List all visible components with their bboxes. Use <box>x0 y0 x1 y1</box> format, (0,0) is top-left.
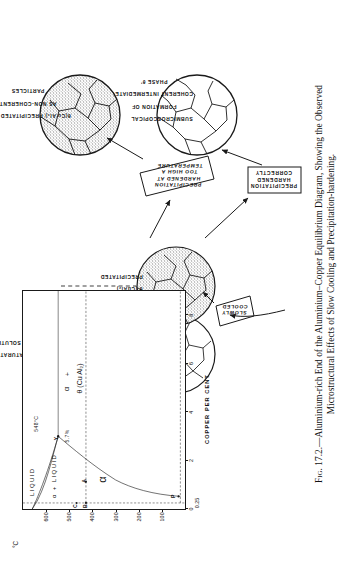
label-coherent-line4: PHASE θ' <box>140 78 167 84</box>
label-noncoherent: θ(Cu Al₂) PRECIPITATED AS NON-COHERENT P… <box>0 87 91 118</box>
x-tick-label-4: 4 <box>188 411 194 414</box>
y-tick-label-200: 200 <box>136 512 142 522</box>
annotation-57pct: 5.7% <box>64 430 70 443</box>
x-tick-label-6: 6 <box>188 362 194 365</box>
label-noncoherent-line3: PARTICLES <box>11 88 44 94</box>
field-label-liquid: LIQUID <box>29 468 35 496</box>
figure-number: Fig. 17.2. <box>314 447 324 483</box>
field-label-alpha: α <box>96 476 108 482</box>
label-coherent-line1: SUBMICROSCOPICAL <box>131 116 193 122</box>
box-correct-label: PRECIPITATION HARDENED CORRECTLY <box>246 170 301 189</box>
y-tick-label-100: 100 <box>159 512 165 522</box>
figure-caption: Fig. 17.2.—Aluminium-rich End of the Alu… <box>313 0 337 568</box>
field-label-alpha-theta-alpha: α <box>62 387 71 392</box>
box-too-high-label: PRECIPITATION HARDENED AT TOO HIGH A TEM… <box>142 162 215 188</box>
figure-page: SOLID SOLUTION (α) θ (CuAl₂) PRECIPITATE… <box>0 0 341 568</box>
label-theta-precipitated-line2: PRECIPITATED <box>100 274 143 280</box>
figure-caption-line1: —Aluminium-rich End of the Aluminium–Cop… <box>314 85 324 447</box>
annotation-548c: 548°C <box>33 416 39 432</box>
box-slowly-cooled-label: SLOWLY COOLED <box>210 304 259 317</box>
point-label-a: A <box>81 479 87 483</box>
rotated-figure-canvas: SOLID SOLUTION (α) θ (CuAl₂) PRECIPITATE… <box>0 0 341 568</box>
field-label-alpha-plus-liquid: α + LIQUID <box>51 454 57 498</box>
point-label-c: C <box>72 504 78 508</box>
y-axis-title: °C <box>12 541 19 548</box>
x-tick-label-8: 8 <box>188 314 194 317</box>
point-label-y: Y <box>53 437 59 440</box>
field-label-alpha-theta-theta: θ (Cu Al₂) <box>76 364 83 394</box>
x-tick-label-025: 0.25 <box>194 498 200 509</box>
label-coherent: SUBMICROSCOPICAL FORMATION OF COHERENT I… <box>102 78 222 121</box>
y-tick-label-500: 500 <box>66 512 72 522</box>
y-tick-label-600: 600 <box>43 512 49 522</box>
label-coherent-line2: FORMATION OF <box>132 103 177 109</box>
point-label-p: P <box>170 495 176 498</box>
x-tick-label-2: 2 <box>188 459 194 462</box>
field-label-alpha-theta-plus: + <box>64 372 71 376</box>
x-axis-title: COPPER PER CENT <box>204 374 210 444</box>
figure-caption-line2: Microstructural Effects of Slow Cooling … <box>326 154 336 414</box>
label-noncoherent-line2: AS NON-COHERENT <box>0 100 57 106</box>
label-coherent-line3: COHERENT INTERMEDIATE <box>115 91 193 97</box>
phase-diagram: °C <box>16 286 212 532</box>
point-label-b: B <box>82 504 88 508</box>
y-tick-label-400: 400 <box>89 512 95 522</box>
y-tick-label-300: 300 <box>113 512 119 522</box>
plot-area: 100 200 300 400 500 600 0 0.25 2 4 6 8 L… <box>22 290 186 510</box>
label-noncoherent-line1: θ(Cu Al₂) PRECIPITATED <box>0 113 70 119</box>
